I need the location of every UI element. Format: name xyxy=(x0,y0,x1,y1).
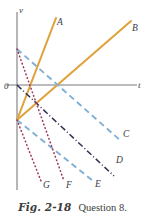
figure-number: Fig. 2-18 xyxy=(18,201,71,213)
line-B xyxy=(17,21,131,120)
curve-label-E: E xyxy=(94,179,101,189)
curve-label-A: A xyxy=(56,17,63,27)
curve-label-F: F xyxy=(65,180,72,190)
curve-label-B: B xyxy=(132,23,138,33)
line-A xyxy=(17,18,56,120)
figure-question-text: Question 8. xyxy=(78,202,126,213)
figure-caption: Fig. 2-18Question 8. xyxy=(0,197,145,215)
y-axis-label: v xyxy=(19,5,23,15)
curve-label-C: C xyxy=(123,129,130,139)
curve-label-D: D xyxy=(115,155,123,165)
figure-container: v t 0 A B C D E F G Fig. 2-18Question 8. xyxy=(0,0,145,218)
line-D xyxy=(17,85,114,176)
line-C xyxy=(17,49,121,141)
origin-label: 0 xyxy=(4,81,9,91)
line-E xyxy=(17,120,93,181)
curve-label-G: G xyxy=(43,180,50,190)
velocity-time-graph: v t 0 A B C D E F G xyxy=(0,0,145,218)
x-axis-label: t xyxy=(138,80,141,90)
